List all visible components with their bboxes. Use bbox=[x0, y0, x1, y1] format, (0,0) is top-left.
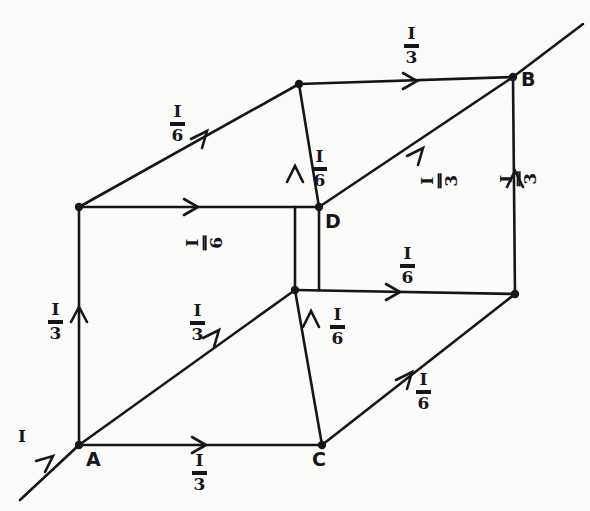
line-c-fr bbox=[322, 294, 515, 445]
arrowhead-mr-d bbox=[287, 166, 303, 182]
label-inflow-i: I bbox=[18, 428, 26, 445]
fraction-numerator: I bbox=[419, 173, 436, 188]
fraction-denominator: 3 bbox=[443, 173, 460, 188]
dot-top-back bbox=[295, 80, 303, 88]
fraction-denominator: 6 bbox=[330, 330, 345, 347]
cube-edges bbox=[20, 24, 583, 500]
dot-top-left bbox=[75, 203, 83, 211]
fraction-numerator: I bbox=[192, 452, 207, 469]
fraction-numerator: I bbox=[312, 148, 327, 165]
fraction-denominator: 6 bbox=[208, 235, 225, 250]
dot-front-right bbox=[511, 290, 519, 298]
fraction-denominator: 3 bbox=[190, 326, 205, 343]
fraction-denominator: 6 bbox=[416, 395, 431, 412]
fraction-denominator: 3 bbox=[48, 325, 63, 342]
dot-a bbox=[75, 441, 83, 449]
fraction-numerator: I bbox=[400, 245, 415, 262]
label-edge-mr-d: I 6 bbox=[312, 148, 327, 190]
line-a-mr bbox=[79, 290, 295, 445]
fraction-numerator: I bbox=[184, 235, 201, 250]
cube-vertex-dots bbox=[75, 73, 519, 449]
line-tb-b bbox=[299, 77, 513, 84]
fraction-numerator: I bbox=[48, 301, 63, 318]
label-edge-a-c: I 3 bbox=[192, 452, 207, 494]
fraction-denominator: 3 bbox=[192, 476, 207, 493]
cube-diagram-svg bbox=[0, 0, 590, 511]
line-d-b bbox=[319, 77, 513, 207]
fraction-denominator: 6 bbox=[400, 269, 415, 286]
vertex-label-d: D bbox=[325, 212, 341, 231]
dot-d bbox=[315, 203, 323, 211]
fraction-numerator: I bbox=[416, 371, 431, 388]
arrowhead-c-mr bbox=[303, 311, 319, 327]
line-inflow bbox=[20, 445, 79, 500]
label-edge-a-tl: I 3 bbox=[48, 301, 63, 343]
label-edge-tl-tb: I 6 bbox=[170, 103, 185, 145]
cube-arrowheads bbox=[36, 73, 523, 472]
vertex-label-b: B bbox=[521, 70, 536, 89]
label-edge-fr-b: I 3 bbox=[498, 171, 540, 186]
label-edge-c-fr: I 6 bbox=[416, 371, 431, 413]
label-edge-tb-b: I 3 bbox=[404, 25, 419, 67]
fraction-numerator: I bbox=[190, 302, 205, 319]
label-edge-d-b: I 3 bbox=[419, 173, 461, 188]
dot-b bbox=[509, 73, 517, 81]
fraction-denominator: 3 bbox=[404, 49, 419, 66]
vertex-label-a: A bbox=[86, 450, 101, 469]
label-edge-c-mr: I 6 bbox=[330, 306, 345, 348]
line-mr-fr bbox=[295, 290, 515, 294]
dot-mid-right bbox=[291, 286, 299, 294]
arrowhead-a-mr bbox=[203, 330, 219, 347]
fraction-numerator: I bbox=[404, 25, 419, 42]
fraction-denominator: 6 bbox=[170, 127, 185, 144]
fraction-denominator: 3 bbox=[522, 171, 539, 186]
fraction-numerator: I bbox=[170, 103, 185, 120]
diagram-canvas: A C D B I I 3 I 3 I 3 I 6 I 6 I 6 I 6 bbox=[0, 0, 590, 511]
label-edge-mr-fr: I 6 bbox=[400, 245, 415, 287]
fraction-numerator: I bbox=[330, 306, 345, 323]
vertex-label-c: C bbox=[312, 450, 326, 469]
label-edge-a-mr: I 3 bbox=[190, 302, 205, 344]
arrowhead-inflow bbox=[36, 456, 53, 472]
label-edge-tl-d: I 6 bbox=[184, 235, 226, 250]
fraction-numerator: I bbox=[498, 171, 515, 186]
arrowhead-d-b bbox=[407, 148, 423, 165]
line-tl-tb bbox=[79, 84, 299, 207]
fraction-denominator: 6 bbox=[312, 172, 327, 189]
